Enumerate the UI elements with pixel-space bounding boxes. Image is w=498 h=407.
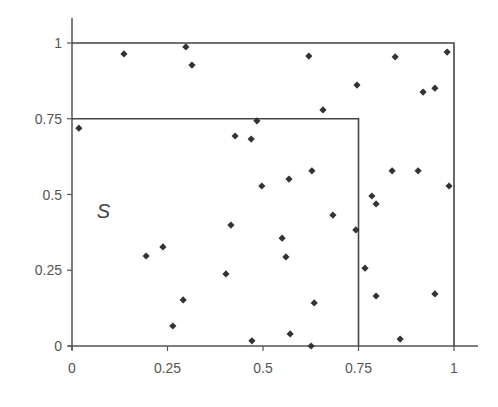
data-point xyxy=(180,296,187,303)
x-tick-label: 0.5 xyxy=(253,360,273,376)
data-point xyxy=(419,88,426,95)
data-point xyxy=(397,335,404,342)
data-point xyxy=(392,53,399,60)
x-tick-label: 0.25 xyxy=(154,360,181,376)
data-point xyxy=(232,132,239,139)
inner-square-S xyxy=(72,119,359,346)
data-point xyxy=(143,252,150,259)
data-point xyxy=(279,235,286,242)
data-point xyxy=(431,85,438,92)
y-tick-label: 1 xyxy=(54,35,62,51)
data-point xyxy=(159,243,166,250)
data-point xyxy=(248,337,255,344)
y-tick-label: 0.5 xyxy=(43,187,63,203)
data-point xyxy=(120,50,127,57)
data-point xyxy=(372,292,379,299)
data-point xyxy=(445,182,452,189)
data-point xyxy=(305,52,312,59)
data-point xyxy=(311,299,318,306)
data-point xyxy=(75,125,82,132)
data-point xyxy=(258,182,265,189)
data-point xyxy=(389,167,396,174)
y-tick-label: 0.75 xyxy=(35,111,62,127)
x-tick-label: 1 xyxy=(450,360,458,376)
x-tick-label: 0.75 xyxy=(345,360,372,376)
data-point xyxy=(308,342,315,349)
x-tick-label: 0 xyxy=(68,360,76,376)
data-point xyxy=(182,43,189,50)
data-point xyxy=(319,106,326,113)
data-point xyxy=(227,222,234,229)
scatter-chart: 00.250.50.75100.250.50.751S xyxy=(0,0,498,407)
data-point xyxy=(353,82,360,89)
plot-area: 00.250.50.75100.250.50.751S xyxy=(35,18,478,376)
data-point xyxy=(368,192,375,199)
data-point xyxy=(248,135,255,142)
outer-square xyxy=(72,43,454,346)
y-tick-label: 0 xyxy=(54,338,62,354)
data-point xyxy=(361,265,368,272)
data-point xyxy=(329,212,336,219)
data-point xyxy=(222,270,229,277)
data-point xyxy=(431,290,438,297)
data-point xyxy=(414,167,421,174)
y-tick-label: 0.25 xyxy=(35,262,62,278)
data-point xyxy=(308,167,315,174)
data-point xyxy=(188,62,195,69)
data-point xyxy=(285,175,292,182)
region-label-s: S xyxy=(97,200,111,222)
data-point xyxy=(169,322,176,329)
data-point xyxy=(287,330,294,337)
data-point xyxy=(444,48,451,55)
data-point xyxy=(372,200,379,207)
data-point xyxy=(282,253,289,260)
